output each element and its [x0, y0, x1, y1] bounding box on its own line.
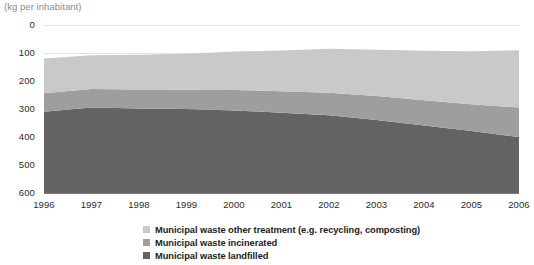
legend-swatch-icon: [143, 252, 150, 259]
x-tick-1998: 1998: [117, 199, 161, 210]
legend-incinerated[interactable]: Municipal waste incinerated: [143, 236, 523, 249]
y-tick-400: 200: [5, 75, 35, 86]
y-tick-0: 600: [5, 187, 35, 198]
y-tick-500: 100: [5, 47, 35, 58]
legend-label: Municipal waste landfilled: [155, 251, 268, 261]
x-tick-2001: 2001: [260, 199, 304, 210]
legend-other-treatment[interactable]: Municipal waste other treatment (e.g. re…: [143, 223, 523, 236]
y-tick-300: 300: [5, 103, 35, 114]
x-tick-2005: 2005: [450, 199, 494, 210]
x-tick-2000: 2000: [212, 199, 256, 210]
legend-label: Municipal waste incinerated: [155, 238, 277, 248]
y-tick-600: 0: [5, 19, 35, 30]
legend-swatch-icon: [143, 226, 150, 233]
y-tick-100: 500: [5, 159, 35, 170]
x-tick-1997: 1997: [70, 199, 114, 210]
plot-svg: [0, 0, 526, 200]
x-tick-2002: 2002: [307, 199, 351, 210]
legend-landfilled[interactable]: Municipal waste landfilled: [143, 249, 523, 262]
x-tick-1999: 1999: [165, 199, 209, 210]
chart-legend: Municipal waste other treatment (e.g. re…: [143, 223, 523, 262]
x-tick-2004: 2004: [402, 199, 446, 210]
legend-swatch-icon: [143, 239, 150, 246]
plot-area: 6005004003002001000: [0, 0, 526, 200]
x-tick-2003: 2003: [355, 199, 399, 210]
y-tick-200: 400: [5, 131, 35, 142]
x-tick-1996: 1996: [22, 199, 66, 210]
legend-label: Municipal waste other treatment (e.g. re…: [155, 225, 420, 235]
x-tick-2006: 2006: [497, 199, 534, 210]
